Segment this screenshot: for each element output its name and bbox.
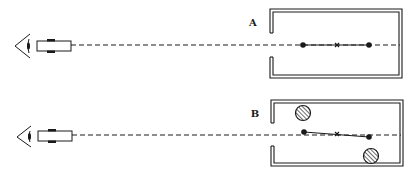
dot-right bbox=[366, 134, 372, 140]
panel-label: A bbox=[248, 17, 257, 28]
eyepiece bbox=[38, 131, 72, 141]
panel-a: A bbox=[15, 9, 402, 78]
eyepiece-band-bottom bbox=[48, 141, 56, 144]
eyepiece bbox=[37, 41, 71, 51]
panel-label: B bbox=[251, 108, 259, 119]
eyepiece-band-top bbox=[48, 129, 56, 132]
enclosure-outer-wall bbox=[271, 100, 403, 166]
hatched-circle bbox=[364, 149, 379, 164]
eyepiece-band-bottom bbox=[47, 51, 55, 54]
dot-right bbox=[366, 42, 372, 48]
dot-left bbox=[301, 129, 307, 135]
dot-left bbox=[300, 42, 306, 48]
hatched-circle bbox=[296, 106, 311, 121]
panel-b: B bbox=[17, 100, 403, 166]
eye-pupil-icon bbox=[27, 43, 30, 50]
enclosure-inner-wall bbox=[274, 103, 400, 163]
diagram-canvas: A B bbox=[0, 0, 416, 179]
eye-pupil-icon bbox=[28, 133, 31, 140]
eyepiece-band-top bbox=[47, 39, 55, 42]
